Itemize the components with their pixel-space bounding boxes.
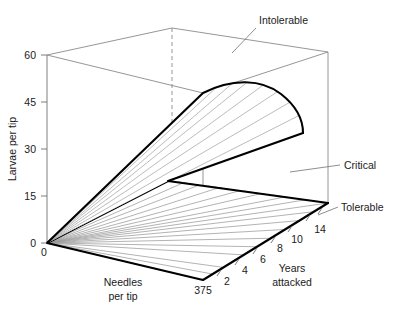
years-tick-label-8: 8 <box>277 242 283 254</box>
years-tick-label-4: 4 <box>242 264 248 276</box>
y-tick-label-60: 60 <box>24 49 36 61</box>
y-tick-label-0: 0 <box>30 237 36 249</box>
plot-svg: 0 15 30 45 60 Larvae per tip 0 375 Needl… <box>0 0 395 318</box>
intolerable-label: Intolerable <box>259 14 308 26</box>
tolerable-label: Tolerable <box>341 201 384 213</box>
needles-tick-label-375: 375 <box>194 284 212 296</box>
surface-diagram-figure: 0 15 30 45 60 Larvae per tip 0 375 Needl… <box>0 0 395 318</box>
y-axis: 0 15 30 45 60 Larvae per tip <box>6 49 47 249</box>
years-tick-label-14: 14 <box>314 223 326 235</box>
y-axis-title: Larvae per tip <box>6 117 18 181</box>
y-tick-label-30: 30 <box>24 143 36 155</box>
needles-axis-title-line1: Needles <box>104 276 143 288</box>
needles-axis-title-line2: per tip <box>108 290 137 302</box>
years-axis-title-line1: Years <box>279 262 305 274</box>
years-tick-label-2: 2 <box>224 275 230 287</box>
y-axis-title-text: Larvae per tip <box>6 117 18 181</box>
callout-critical: Critical <box>290 159 376 172</box>
needles-tick-label-0: 0 <box>41 246 47 258</box>
y-tick-label-45: 45 <box>24 96 36 108</box>
years-axis-title-line2: attacked <box>272 276 312 288</box>
box-top-back-edges <box>47 28 328 55</box>
years-tick-label-10: 10 <box>291 233 303 245</box>
critical-leader-line <box>290 165 340 172</box>
box-top-front-edges <box>47 52 328 93</box>
y-tick-label-15: 15 <box>24 190 36 202</box>
critical-label: Critical <box>344 159 376 171</box>
years-tick-label-6: 6 <box>260 253 266 265</box>
